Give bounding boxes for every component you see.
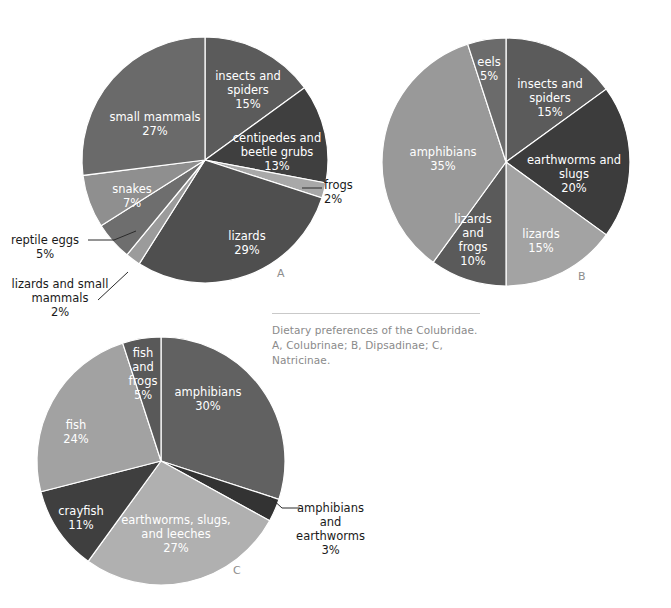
pie-b-label-eels-pct: 5%	[480, 69, 498, 83]
pie-chart-c: amphibians 30% earthworms, slugs, and le…	[11, 311, 311, 608]
pie-b-label-lizards-pct: 15%	[528, 241, 554, 255]
pie-a-slices: insects and spiders 15% centipedes and b…	[82, 37, 328, 283]
pie-b-label-lizards-frogs-pct: 10%	[460, 254, 486, 268]
pie-a-slice-small-mammals[interactable]	[82, 37, 205, 175]
ext-label-a-reptile-eggs: reptile eggs 5%	[0, 233, 90, 261]
pie-b-label-insects-line1: insects and	[517, 77, 583, 91]
pie-chart-a: insects and spiders 15% centipedes and b…	[55, 10, 355, 310]
pie-a-label-centipedes-line2: beetle grubs	[241, 145, 314, 159]
pie-c-label-fish-frogs-pct: 5%	[134, 388, 152, 402]
pie-c-label-earthworms-pct: 27%	[163, 541, 189, 555]
pie-c-label-fish-frogs-line1: fish	[133, 346, 154, 360]
pie-b-label-earthworms-pct: 20%	[561, 181, 587, 195]
pie-a-label-insects-line2: spiders	[227, 83, 269, 97]
pie-b-label-insects-pct: 15%	[537, 105, 563, 119]
ext-label-c-amphibians-and-earthworms: amphibians and earthworms 3%	[283, 501, 378, 557]
pie-a-label-insects-line1: insects and	[215, 69, 281, 83]
pie-a-label-snakes-pct: 7%	[123, 196, 141, 210]
pie-b-label-lizards-frogs-line1: lizards	[454, 212, 491, 226]
pie-c-label-earthworms-line1: earthworms, slugs,	[121, 513, 231, 527]
pie-b-slices: insects and spiders 15% earthworms and s…	[382, 38, 630, 286]
pie-a-label-centipedes-pct: 13%	[264, 159, 290, 173]
pie-b-label-insects-line2: spiders	[529, 91, 571, 105]
pie-c-label-crayfish-pct: 11%	[68, 518, 94, 532]
figure-caption: Dietary preferences of the Colubridae. A…	[272, 313, 488, 369]
pie-c-label-earthworms-line2: and leeches	[141, 527, 210, 541]
caption-line-2: A, Colubrinae; B, Dipsadinae; C, Natrici…	[272, 338, 488, 368]
pie-c-label-fish-pct: 24%	[63, 432, 89, 446]
caption-rule	[272, 313, 480, 314]
pie-b-label-amphibians-line1: amphibians	[410, 145, 477, 159]
pie-c-label-amphibians-line1: amphibians	[175, 385, 242, 399]
pie-c-label-fish-line1: fish	[66, 418, 87, 432]
pie-a-label-centipedes-line1: centipedes and	[233, 131, 321, 145]
pie-c-slices: amphibians 30% earthworms, slugs, and le…	[37, 337, 285, 585]
pie-a-label-small-mammals-line1: small mammals	[109, 110, 200, 124]
figure-pie-charts: insects and spiders 15% centipedes and b…	[0, 0, 671, 608]
pie-b-label-lizards-line1: lizards	[522, 227, 559, 241]
panel-letter-b: B	[578, 270, 586, 283]
pie-b-label-eels-line1: eels	[477, 55, 500, 69]
pie-b-label-lizards-frogs-line3: frogs	[459, 240, 488, 254]
panel-letter-a: A	[277, 267, 285, 280]
pie-b-label-amphibians-pct: 35%	[430, 159, 456, 173]
pie-c-label-crayfish-line1: crayfish	[58, 504, 103, 518]
panel-letter-c: C	[233, 564, 241, 577]
pie-c-label-fish-frogs-line2: and	[132, 360, 154, 374]
pie-a-label-snakes-line1: snakes	[112, 182, 152, 196]
pie-a-label-lizards-pct: 29%	[234, 243, 260, 257]
pie-c-label-amphibians-pct: 30%	[195, 399, 221, 413]
pie-a-label-insects-pct: 15%	[235, 97, 261, 111]
pie-b-label-earthworms-line2: slugs	[559, 167, 589, 181]
pie-a-label-small-mammals-pct: 27%	[142, 124, 168, 138]
caption-line-1: Dietary preferences of the Colubridae.	[272, 323, 488, 338]
pie-c-label-fish-frogs-line3: frogs	[129, 374, 158, 388]
pie-a-label-lizards-line1: lizards	[228, 229, 265, 243]
pie-b-label-lizards-frogs-line2: and	[462, 226, 484, 240]
pie-b-label-earthworms-line1: earthworms and	[527, 153, 621, 167]
pie-chart-b: insects and spiders 15% earthworms and s…	[356, 12, 656, 312]
